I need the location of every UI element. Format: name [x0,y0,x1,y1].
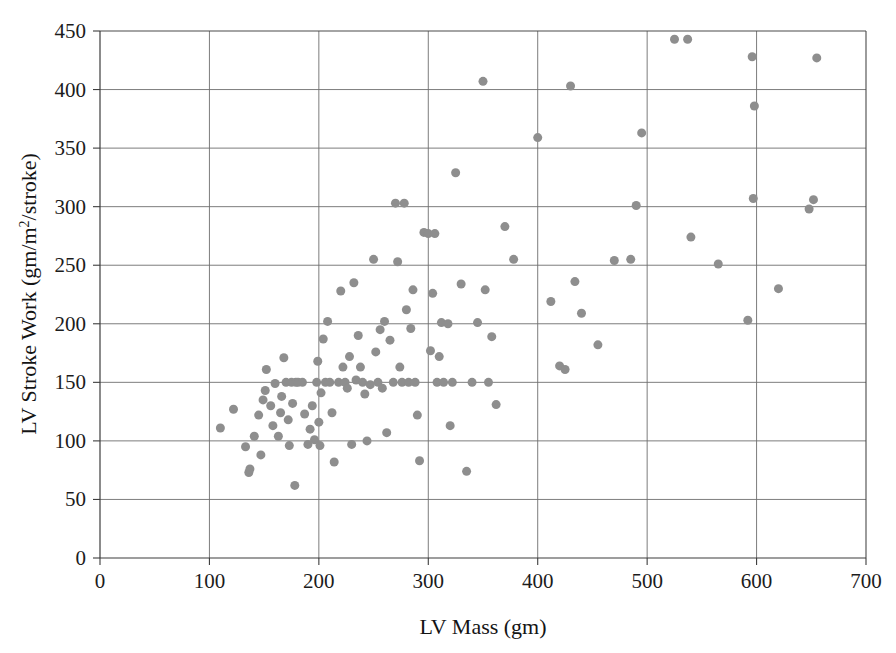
data-point [443,319,452,328]
x-tick-label: 200 [303,569,335,593]
data-point [439,378,448,387]
data-point [354,331,363,340]
data-point [266,401,275,410]
data-point [750,101,759,110]
data-point [509,255,518,264]
plot-gridlines [100,31,866,558]
data-points-layer [216,35,821,490]
data-point [319,335,328,344]
data-point [484,378,493,387]
data-point [395,363,404,372]
data-point [279,353,288,362]
data-point [468,378,477,387]
y-tick-label: 0 [76,546,87,570]
data-point [284,415,293,424]
data-point [241,442,250,451]
data-point [290,481,299,490]
data-point [308,401,317,410]
data-point [411,378,420,387]
data-point [349,278,358,287]
data-point [415,456,424,465]
data-point [345,352,354,361]
data-point [774,284,783,293]
data-point [369,255,378,264]
data-point [546,297,555,306]
data-point [570,277,579,286]
data-point [385,336,394,345]
data-point [389,378,398,387]
data-point [670,35,679,44]
data-point [300,409,309,418]
data-point [325,378,334,387]
data-point [714,260,723,269]
data-point [259,395,268,404]
y-axis-title-superscript: 2 [17,220,32,227]
data-point [268,421,277,430]
data-point [360,390,369,399]
data-point [250,432,259,441]
x-tick-label: 0 [95,569,106,593]
data-point [366,380,375,389]
data-point [229,405,238,414]
data-point [256,450,265,459]
data-point [254,411,263,420]
data-point [457,279,466,288]
y-tick-label: 200 [55,312,87,336]
y-axis-title: LV Stroke Work (gm/m2/stroke) [16,153,41,435]
data-point [492,400,501,409]
x-tick-label: 500 [631,569,663,593]
data-point [261,386,270,395]
data-point [277,392,286,401]
data-point [533,133,542,142]
data-point [626,255,635,264]
data-point [371,347,380,356]
data-point [314,418,323,427]
data-point [312,378,321,387]
y-axis-title-main: LV Stroke Work (gm/m [16,227,41,434]
data-point [430,229,439,238]
data-point [743,316,752,325]
data-point [274,432,283,441]
x-axis-title: LV Mass (gm) [419,614,546,639]
data-point [451,168,460,177]
data-point [406,324,415,333]
y-axis-title-tail: /stroke) [16,153,41,220]
data-point [298,378,307,387]
y-tick-label: 400 [55,78,87,102]
y-tick-label: 250 [55,253,87,277]
data-point [487,332,496,341]
data-point [500,222,509,231]
data-point [481,285,490,294]
data-point [306,425,315,434]
data-point [391,199,400,208]
data-point [402,305,411,314]
data-point [812,53,821,62]
data-point [566,82,575,91]
data-point [327,408,336,417]
data-point [683,35,692,44]
data-point [323,317,332,326]
y-tick-label: 350 [55,136,87,160]
data-point [382,428,391,437]
x-tick-label: 300 [413,569,445,593]
data-point [378,384,387,393]
y-tick-label: 50 [65,487,86,511]
data-point [271,379,280,388]
data-point [809,195,818,204]
data-point [315,441,324,450]
data-point [686,233,695,242]
data-point [435,352,444,361]
data-point [347,440,356,449]
data-point [446,421,455,430]
data-point [637,128,646,137]
x-tick-label: 400 [522,569,554,593]
data-point [358,378,367,387]
data-point [632,201,641,210]
data-point [393,257,402,266]
data-point [288,399,297,408]
data-point [561,365,570,374]
data-point [400,199,409,208]
data-point [336,286,345,295]
data-point [413,411,422,420]
data-point [408,285,417,294]
